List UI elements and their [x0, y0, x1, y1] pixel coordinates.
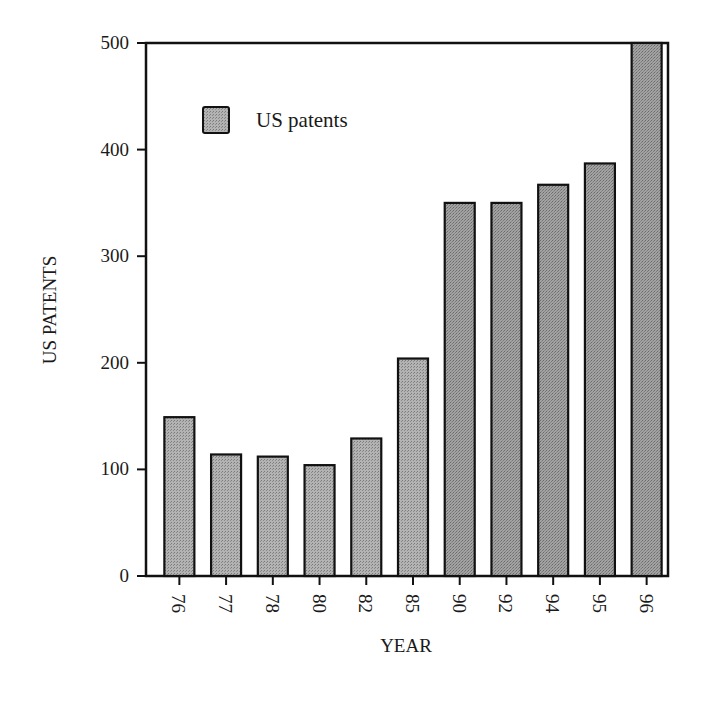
x-tick-label: 76: [168, 594, 189, 613]
bar-78: [258, 457, 288, 576]
x-tick-label: 90: [449, 594, 470, 613]
bar-82: [351, 438, 381, 576]
y-tick-label: 200: [101, 352, 130, 373]
y-tick-label: 100: [101, 458, 130, 479]
x-tick-label: 95: [589, 594, 610, 613]
y-axis: 0100200300400500: [101, 32, 147, 586]
bar-76: [164, 417, 194, 576]
x-axis: 7677788082859092949596: [168, 576, 656, 614]
bar-85: [398, 359, 428, 576]
bar-95: [585, 163, 615, 576]
bar-92: [491, 203, 521, 576]
x-tick-label: 77: [215, 594, 236, 613]
bar-80: [305, 465, 335, 576]
bar-94: [538, 185, 568, 576]
y-tick-label: 0: [120, 565, 130, 586]
bar-chart: 0100200300400500 7677788082859092949596 …: [0, 0, 701, 710]
legend-swatch: [203, 107, 229, 133]
x-tick-label: 96: [636, 594, 657, 613]
x-tick-label: 85: [402, 594, 423, 613]
x-tick-label: 78: [262, 594, 283, 613]
bar-77: [211, 454, 241, 576]
y-tick-label: 400: [101, 139, 130, 160]
bar-90: [445, 203, 475, 576]
bar-96: [632, 43, 662, 576]
x-tick-label: 92: [495, 594, 516, 613]
y-axis-label: US PATENTS: [39, 256, 60, 365]
legend: US patents: [203, 107, 348, 133]
y-tick-label: 300: [101, 245, 130, 266]
x-tick-label: 94: [542, 594, 563, 614]
bars: [164, 43, 661, 576]
x-tick-label: 82: [355, 594, 376, 613]
x-tick-label: 80: [309, 594, 330, 613]
x-axis-label: YEAR: [380, 635, 432, 656]
legend-label: US patents: [256, 108, 348, 132]
y-tick-label: 500: [101, 32, 130, 53]
